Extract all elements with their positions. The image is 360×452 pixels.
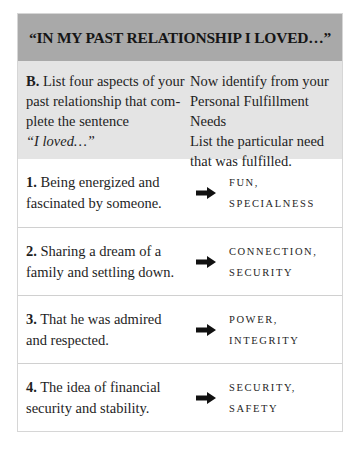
aspect-text: 3. That he was admired and respected. <box>18 309 186 351</box>
instruction-right-line1: Now identify from your <box>190 73 329 89</box>
need-line1: Fun, Specialness <box>229 172 342 214</box>
instruction-left-line1: List four aspects of your <box>39 73 184 89</box>
aspect-text: 1. Being energized and fascinated by som… <box>18 172 186 214</box>
worksheet-title: “IN MY PAST RELATIONSHIP I LOVED…” <box>29 29 331 47</box>
need-line2: Security <box>229 262 342 283</box>
right-arrow-icon <box>196 256 216 268</box>
need-line2: Integrity <box>229 330 342 351</box>
instruction-right-line4: that was fulfilled. <box>190 153 292 169</box>
table-row: 4. The idea of financial security and st… <box>18 363 342 431</box>
table-row: 1. Being energized and fascinated by som… <box>18 159 342 227</box>
fulfilled-need: Security, Safety <box>229 377 342 419</box>
table-row: 3. That he was admired and respected. Po… <box>18 295 342 363</box>
table-row: 2. Sharing a dream of a family and settl… <box>18 227 342 295</box>
need-line1: Power, <box>229 309 342 330</box>
fulfilled-need: Fun, Specialness <box>229 172 342 214</box>
need-line1: Connection, <box>229 241 342 262</box>
need-line1: Security, Safety <box>229 377 342 419</box>
right-arrow-icon <box>196 392 216 404</box>
aspect-line2: fascinated by someone. <box>26 195 162 211</box>
instruction-right-line3: List the particular need <box>190 133 324 149</box>
fulfilled-need: Power, Integrity <box>229 309 342 351</box>
aspect-line2: and respected. <box>26 332 109 348</box>
row-number: 4. <box>26 379 37 395</box>
instruction-right-line2: Personal Fulfillment Needs <box>190 93 309 129</box>
instructions-left: B. List four aspects of your past relati… <box>18 71 188 147</box>
aspect-line2: family and settling down. <box>26 264 174 280</box>
row-number: 3. <box>26 311 37 327</box>
fulfilled-need: Connection, Security <box>229 241 342 283</box>
aspect-line1: Sharing a dream of a <box>37 243 161 259</box>
instruction-left-line3: plete the sentence <box>26 113 129 129</box>
aspect-line1: The idea of financial <box>37 379 161 395</box>
aspect-line2: security and stability. <box>26 400 150 416</box>
instructions-row: B. List four aspects of your past relati… <box>18 61 342 159</box>
instructions-right: Now identify from your Personal Fulfillm… <box>188 71 342 147</box>
aspect-line1: That he was admired <box>37 311 162 327</box>
instruction-left-quote: “I loved…” <box>26 131 188 151</box>
relationship-worksheet-table: “IN MY PAST RELATIONSHIP I LOVED…” B. Li… <box>17 13 343 432</box>
aspect-line1: Being energized and <box>37 174 160 190</box>
aspect-text: 2. Sharing a dream of a family and settl… <box>18 241 186 283</box>
row-number: 2. <box>26 243 37 259</box>
title-bar: “IN MY PAST RELATIONSHIP I LOVED…” <box>18 14 342 61</box>
aspect-text: 4. The idea of financial security and st… <box>18 377 186 419</box>
section-label: B. <box>26 73 39 89</box>
instruction-left-line2: past relationship that com- <box>26 93 180 109</box>
row-number: 1. <box>26 174 37 190</box>
right-arrow-icon <box>196 324 216 336</box>
right-arrow-icon <box>196 187 216 199</box>
answer-rows: 1. Being energized and fascinated by som… <box>18 159 342 431</box>
